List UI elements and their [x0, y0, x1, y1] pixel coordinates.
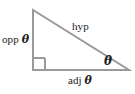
adjacent-side-label: adj θ [68, 75, 92, 86]
opposite-side-label: opp θ [2, 34, 29, 45]
adjacent-side-word: adj [68, 74, 82, 86]
adjacent-theta-symbol: θ [85, 74, 92, 87]
triangle-outline [33, 10, 129, 70]
angle-theta-label: θ [104, 56, 112, 67]
angle-theta-symbol: θ [104, 54, 112, 68]
opposite-theta-symbol: θ [22, 33, 29, 46]
hypotenuse-label: hyp [72, 21, 89, 32]
right-triangle-diagram: opp θ hyp adj θ θ [0, 0, 135, 94]
opposite-side-word: opp [2, 33, 19, 45]
hypotenuse-word: hyp [72, 20, 89, 32]
